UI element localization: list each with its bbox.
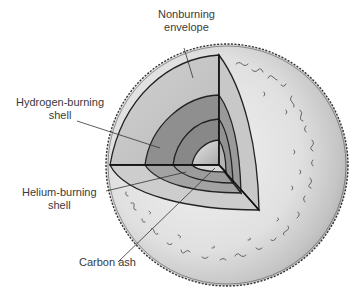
label-line: Carbon ash — [79, 256, 136, 269]
label-line: Nonburning — [158, 8, 215, 21]
label-hydrogen-burning-shell: Hydrogen-burning shell — [16, 96, 104, 122]
star-cutaway-diagram — [0, 0, 355, 293]
label-nonburning-envelope: Nonburning envelope — [158, 8, 215, 34]
label-line: Hydrogen-burning — [16, 96, 104, 109]
label-line: shell — [16, 109, 104, 122]
label-line: shell — [22, 199, 97, 212]
label-line: Helium-burning — [22, 186, 97, 199]
label-helium-burning-shell: Helium-burning shell — [22, 186, 97, 212]
label-line: envelope — [158, 21, 215, 34]
label-carbon-ash: Carbon ash — [79, 256, 136, 269]
